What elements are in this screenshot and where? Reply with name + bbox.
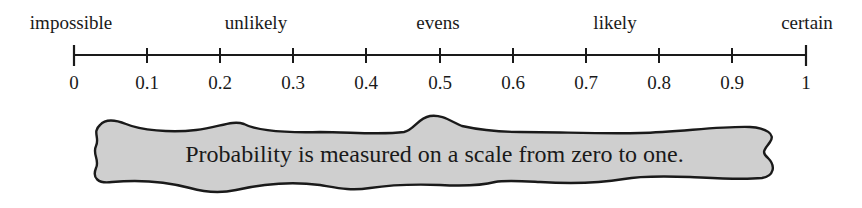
tick-label: 0 xyxy=(69,72,79,94)
tick-label: 0.2 xyxy=(208,72,232,94)
tick-label: 0.6 xyxy=(501,72,525,94)
caption-text: Probability is measured on a scale from … xyxy=(94,141,775,168)
tick-label: 0.1 xyxy=(135,72,159,94)
tick-label: 0.9 xyxy=(720,72,744,94)
descriptor-evens: evens xyxy=(416,12,459,34)
descriptor-impossible: impossible xyxy=(30,12,112,34)
tick-label: 0.8 xyxy=(647,72,671,94)
descriptor-certain: certain xyxy=(781,12,833,34)
descriptor-likely: likely xyxy=(593,12,636,34)
tick-label: 0.3 xyxy=(281,72,305,94)
tick-label: 1 xyxy=(801,72,811,94)
tick-label: 0.7 xyxy=(574,72,598,94)
tick-label: 0.4 xyxy=(354,72,378,94)
tick-label: 0.5 xyxy=(428,72,452,94)
descriptor-unlikely: unlikely xyxy=(225,12,287,34)
